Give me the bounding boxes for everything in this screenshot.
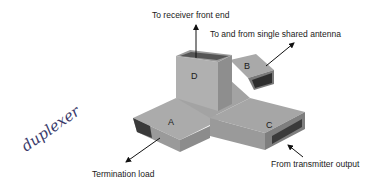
- label-transmitter: From transmitter output: [271, 159, 360, 169]
- arrow-antenna: [266, 43, 294, 66]
- handwritten-annotation: duplexer: [18, 102, 84, 156]
- port-label-b: B: [244, 61, 250, 71]
- label-termination: Termination load: [92, 169, 155, 179]
- arrow-termination: [126, 138, 160, 162]
- port-label-a: A: [168, 117, 174, 127]
- arrow-transmitter: [288, 145, 303, 157]
- label-antenna: To and from single shared antenna: [210, 29, 341, 39]
- port-label-d: D: [191, 71, 198, 81]
- waveguide-arm-b: [230, 54, 274, 90]
- label-receiver: To receiver front end: [152, 10, 230, 20]
- duplexer-diagram: duplexer D B A: [0, 0, 378, 185]
- port-label-c: C: [266, 120, 273, 130]
